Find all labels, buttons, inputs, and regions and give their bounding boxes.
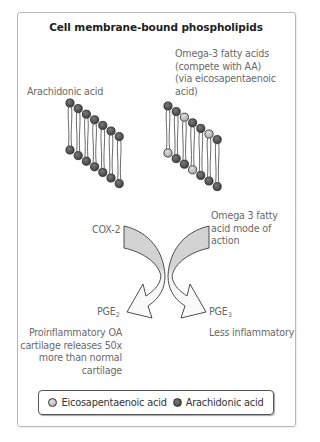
arachidonic-head — [107, 127, 115, 135]
pge3-outcome: Less inflammatory — [209, 327, 294, 340]
legend-item-eicosapentaenoic: Eicosapentaenoic acid — [48, 397, 166, 408]
arachidonic-head — [99, 168, 107, 176]
arachidonic-head — [205, 177, 213, 185]
arachidonic-head — [82, 157, 90, 165]
arachidonic-head — [99, 121, 107, 129]
eicosapentaenoic-head — [189, 166, 197, 174]
arachidonic-head — [74, 152, 82, 160]
arachidonic-head — [107, 174, 115, 182]
pge3-label: PGE3 — [209, 306, 232, 322]
arachidonic-head — [180, 160, 188, 168]
omega3-membrane — [164, 102, 221, 191]
arachidonic-head — [164, 102, 172, 110]
legend-item-arachidonic: Arachidonic acid — [173, 397, 264, 408]
omega3-arrow — [168, 226, 209, 318]
arachidonic-membrane — [66, 99, 123, 188]
light-ball-icon — [48, 398, 57, 407]
arachidonic-head — [197, 124, 205, 132]
arachidonic-head — [82, 110, 90, 118]
arachidonic-head — [213, 183, 221, 191]
arachidonic-head — [197, 171, 205, 179]
omega3-action-label: Omega 3 fatty acid mode of action — [211, 210, 278, 248]
eicosapentaenoic-head — [205, 130, 213, 138]
arachidonic-head — [189, 119, 197, 127]
arachidonic-head — [66, 99, 74, 107]
pge2-outcome: Proinflammatory OA cartilage releases 50… — [20, 327, 122, 377]
arachidonic-head — [66, 146, 74, 154]
arachidonic-head — [172, 108, 180, 116]
pge2-label: PGE2 — [97, 306, 120, 322]
eicosapentaenoic-head — [164, 149, 172, 157]
arachidonic-head — [115, 180, 123, 188]
arachidonic-head — [115, 133, 123, 141]
cox2-arrow — [124, 226, 165, 318]
eicosapentaenoic-head — [180, 113, 188, 121]
arachidonic-head — [213, 136, 221, 144]
dark-ball-icon — [173, 398, 182, 407]
legend: Eicosapentaenoic acid Arachidonic acid — [38, 390, 274, 415]
arachidonic-head — [91, 163, 99, 171]
arachidonic-head — [91, 116, 99, 124]
cox2-label: COX-2 — [92, 224, 120, 237]
arachidonic-head — [74, 105, 82, 113]
arachidonic-head — [172, 155, 180, 163]
